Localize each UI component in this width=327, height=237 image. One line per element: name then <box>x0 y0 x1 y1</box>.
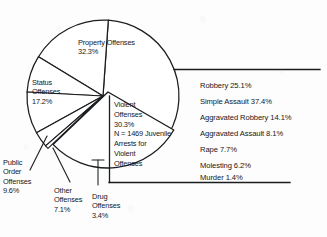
slice-label-public-order: Public Order Offenses 9.6% <box>3 158 31 196</box>
breakout-item-robbery: Robbery 25.1% <box>200 81 251 90</box>
breakout-item-rape: Rape 7.7% <box>200 145 237 154</box>
slice-label-drug: Drug Offenses 3.4% <box>92 192 120 220</box>
pie-chart-figure: Property Offenses 32.3% Status Offenses … <box>0 0 327 237</box>
breakout-item-simple-assault: Simple Assault 37.4% <box>200 97 272 106</box>
breakout-item-molesting: Molesting 6.2% <box>200 161 251 170</box>
slice-label-property: Property Offenses 32.3% <box>78 38 135 57</box>
slice-label-status: Status Offenses 17.2% <box>32 78 60 106</box>
leader-line-public-order <box>30 136 47 170</box>
breakout-item-aggravated-robbery: Aggravated Robbery 14.1% <box>200 113 291 122</box>
slice-label-other: Other Offenses 7.1% <box>54 186 82 214</box>
breakout-item-aggravated-assault: Aggravated Assault 8.1% <box>200 129 283 138</box>
breakout-item-murder: Murder 1.4% <box>200 173 243 182</box>
slice-label-violent: Violent Offenses 30.3% N = 1469 Juvenile… <box>114 100 171 169</box>
